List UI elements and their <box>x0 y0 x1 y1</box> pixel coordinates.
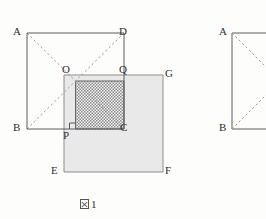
vertex-label-d: D <box>119 26 127 37</box>
vertex-label-b: B <box>13 122 20 133</box>
figure-container: A D O Q G B P C E F A B 1 <box>0 0 266 219</box>
vertex-label-e: E <box>51 165 58 176</box>
cjk-glyph-box-icon <box>80 199 89 209</box>
fig2-vertex-label-b: B <box>219 122 226 133</box>
fig2-diagonal-from-a-dashed <box>232 33 266 67</box>
vertex-label-a: A <box>13 26 21 37</box>
vertex-label-o: O <box>62 64 70 75</box>
vertex-label-p: P <box>63 130 69 141</box>
figure-caption-number: 1 <box>91 198 97 210</box>
vertex-label-q: Q <box>119 64 127 75</box>
vertex-label-g: G <box>165 68 173 79</box>
figure-caption: 1 <box>80 198 97 210</box>
figure-2-partial-geometry <box>232 33 266 129</box>
fig2-vertex-label-a: A <box>219 26 227 37</box>
vertex-label-c: C <box>120 122 127 133</box>
fig2-diagonal-from-b-dashed <box>232 95 266 129</box>
vertex-label-f: F <box>165 165 171 176</box>
